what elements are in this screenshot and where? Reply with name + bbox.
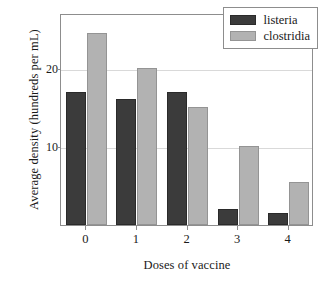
x-axis-tick-label: 2: [167, 232, 207, 247]
x-axis-tick-label: 3: [217, 232, 257, 247]
bar-clostridia-2: [188, 107, 208, 225]
legend-swatch-clostridia: [230, 31, 256, 41]
bar-listeria-1: [116, 99, 136, 225]
legend-label-listeria: listeria: [263, 13, 297, 27]
legend-item-clostridia[interactable]: clostridia: [230, 28, 310, 44]
x-axis-tick-label: 4: [268, 232, 308, 247]
bar-listeria-4: [268, 213, 288, 225]
x-axis-tick-label: 0: [65, 232, 105, 247]
x-axis-tick-mark: [237, 226, 238, 230]
bar-clostridia-4: [289, 182, 309, 225]
bar-clostridia-0: [87, 33, 107, 225]
bar-clostridia-1: [137, 68, 157, 225]
x-axis-tick-mark: [136, 226, 137, 230]
legend-item-listeria[interactable]: listeria: [230, 12, 310, 28]
x-axis-title: Doses of vaccine: [60, 258, 314, 273]
bar-clostridia-3: [239, 146, 259, 225]
bar-listeria-3: [218, 209, 238, 225]
bar-listeria-0: [66, 92, 86, 225]
bar-listeria-2: [167, 92, 187, 225]
x-axis-tick-label: 1: [116, 232, 156, 247]
x-axis-tick-mark: [288, 226, 289, 230]
bar-chart-figure: Average density (hundreds per mL) Doses …: [0, 0, 326, 285]
y-axis-tick-label: 10: [18, 141, 58, 153]
x-axis-tick-mark: [187, 226, 188, 230]
x-axis-tick-mark: [85, 226, 86, 230]
legend-swatch-listeria: [230, 15, 256, 25]
y-axis-tick-label: 20: [18, 63, 58, 75]
chart-legend: listeria clostridia: [223, 7, 318, 49]
y-axis-title: Average density (hundreds per mL): [27, 15, 42, 225]
legend-label-clostridia: clostridia: [263, 29, 310, 43]
